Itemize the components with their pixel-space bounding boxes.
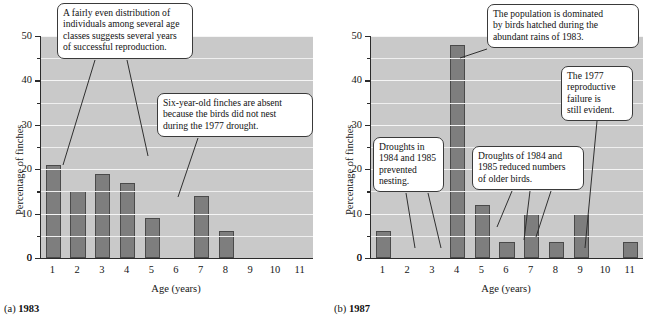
y-axis-title-1983: Percentage of finches	[14, 125, 25, 215]
y-tick-label: 50	[336, 31, 362, 42]
x-tick-label: 4	[444, 265, 469, 276]
bar	[70, 191, 85, 258]
x-tick-label: 5	[469, 265, 494, 276]
bar	[120, 183, 135, 258]
x-tick-label: 3	[89, 265, 114, 276]
y-tick-minor	[37, 191, 41, 192]
x-tick-label: 2	[395, 265, 420, 276]
gridline	[41, 236, 313, 237]
y-tick-major	[365, 258, 370, 259]
gridline	[41, 147, 313, 148]
x-tick-label: 7	[188, 265, 213, 276]
caption-prefix: (b)	[334, 303, 346, 314]
y-tick-label: 50	[6, 31, 32, 42]
y-tick-minor	[367, 58, 371, 59]
y-tick-minor	[37, 58, 41, 59]
bar	[46, 165, 61, 258]
x-tick-label: 9	[238, 265, 263, 276]
x-tick-label: 10	[593, 265, 618, 276]
bar	[194, 196, 209, 258]
callout-droughts-reduced-older: Droughts of 1984 and 1985 reduced number…	[472, 146, 584, 190]
gridline	[371, 214, 643, 215]
panel-caption-1983: (a) 1983	[4, 303, 39, 314]
caption-year: 1983	[18, 303, 39, 314]
panel-a-1983: 010203040500 1234567891011 Percentage of…	[0, 0, 330, 323]
y-tick-major	[365, 214, 370, 215]
y-tick-major	[35, 80, 40, 81]
callout-line: reproductive	[567, 81, 628, 92]
y-tick-major	[365, 36, 370, 37]
y-tick-minor	[367, 147, 371, 148]
callout-line: A fairly even distribution of	[63, 7, 188, 18]
x-tick-label: 6	[164, 265, 189, 276]
x-tick-label: 5	[139, 265, 164, 276]
y-tick-minor	[37, 147, 41, 148]
callout-line: classes suggests several years	[63, 30, 188, 41]
caption-year: 1987	[349, 303, 370, 314]
callout-line: failure is	[567, 93, 628, 104]
bar	[145, 218, 160, 258]
gridline	[41, 80, 313, 81]
callout-line: during the 1977 drought.	[163, 120, 308, 131]
callout-six-year-old-absent: Six-year-old finches are absent because …	[157, 93, 313, 137]
callout-line: by birds hatched during the	[493, 19, 634, 30]
callout-1977-failure: The 1977 reproductive failure is still e…	[561, 66, 633, 121]
callout-line: Six-year-old finches are absent	[163, 97, 308, 108]
panel-caption-1987: (b) 1987	[334, 303, 370, 314]
x-tick-label: 6	[494, 265, 519, 276]
callout-line: Droughts in	[379, 141, 439, 152]
y-tick-major	[35, 125, 40, 126]
callout-line: of successful reproduction.	[63, 41, 188, 52]
gridline	[41, 191, 313, 192]
x-tick-label: 1	[370, 265, 395, 276]
callout-line: of older birds.	[478, 173, 579, 184]
callout-line: nesting.	[379, 175, 439, 186]
bar	[95, 174, 110, 258]
bar	[499, 242, 514, 258]
panel-b-1987: 010203040500 1234567891011 Percentage of…	[330, 0, 657, 323]
gridline	[41, 214, 313, 215]
callout-line: still evident.	[567, 104, 628, 115]
x-tick-label: 10	[263, 265, 288, 276]
x-tick-label: 2	[65, 265, 90, 276]
x-tick-label: 11	[617, 265, 642, 276]
y-tick-major	[35, 214, 40, 215]
x-tick-label: 4	[114, 265, 139, 276]
figure-finch-age-distributions: 010203040500 1234567891011 Percentage of…	[0, 0, 657, 323]
callout-line: individuals among several age	[63, 18, 188, 29]
x-axis-title-1987: Age (years)	[370, 283, 642, 294]
callout-line: prevented	[379, 164, 439, 175]
y-axis-title-1987: Percentage of finches	[344, 125, 355, 215]
y-tick-major	[35, 258, 40, 259]
y-tick-label: 40	[336, 75, 362, 86]
callout-line: The 1977	[567, 70, 628, 81]
gridline	[371, 236, 643, 237]
callout-line: The population is dominated	[493, 8, 634, 19]
gridline	[371, 58, 643, 59]
gridline	[371, 125, 643, 126]
bar	[623, 242, 638, 258]
x-tick-label: 3	[419, 265, 444, 276]
x-tick-label: 11	[287, 265, 312, 276]
y-tick-label: 0	[6, 253, 32, 264]
y-tick-major	[365, 80, 370, 81]
y-tick-minor	[367, 236, 371, 237]
y-tick-major	[35, 36, 40, 37]
callout-line: because the birds did not nest	[163, 108, 308, 119]
y-tick-minor	[37, 103, 41, 104]
x-tick-label: 8	[213, 265, 238, 276]
x-axis-title-1983: Age (years)	[40, 283, 312, 294]
y-tick-minor	[367, 191, 371, 192]
callout-line: Droughts of 1984 and	[478, 150, 579, 161]
y-tick-major	[365, 125, 370, 126]
callout-population-dominated: The population is dominated by birds hat…	[487, 4, 639, 48]
x-tick-label: 9	[568, 265, 593, 276]
callout-line: abundant rains of 1983.	[493, 31, 634, 42]
y-tick-label: 0	[336, 253, 362, 264]
y-tick-minor	[37, 236, 41, 237]
callout-even-distribution: A fairly even distribution of individual…	[57, 3, 193, 59]
x-tick-label: 7	[518, 265, 543, 276]
plot-area-1983	[40, 36, 313, 259]
y-tick-major	[35, 169, 40, 170]
callout-line: 1985 reduced numbers	[478, 161, 579, 172]
